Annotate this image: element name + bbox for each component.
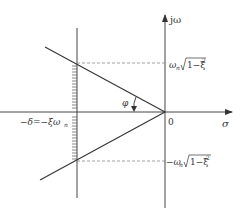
- svg-text:n: n: [176, 64, 180, 71]
- svg-text:n: n: [179, 161, 183, 168]
- svg-text:n: n: [64, 121, 68, 128]
- svg-text:−δ=−ξω: −δ=−ξω: [20, 117, 61, 127]
- svg-text:2: 2: [202, 57, 206, 64]
- origin-label: 0: [168, 117, 174, 127]
- svg-text:2: 2: [206, 154, 210, 161]
- s-plane-diagram: jω σ 0 φ ω n 1−ξ 2 −ω n 1−ξ 2 −δ=−ξω n: [0, 0, 241, 219]
- upper-freq-label: ω n 1−ξ 2: [169, 57, 206, 71]
- angle-label: φ: [122, 98, 129, 108]
- angle-arrow-icon: [131, 106, 137, 112]
- lower-freq-label: −ω n 1−ξ 2: [166, 154, 211, 168]
- real-axis-label: σ: [222, 118, 230, 129]
- delta-label: −δ=−ξω n: [20, 117, 68, 128]
- imag-axis-label: jω: [169, 14, 181, 25]
- upper-damping-line: [45, 47, 165, 112]
